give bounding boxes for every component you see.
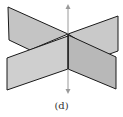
figure-caption: (d) <box>0 100 123 111</box>
axis-arrowhead-down-icon <box>66 89 71 94</box>
axis-arrowhead-up-icon <box>66 4 71 9</box>
